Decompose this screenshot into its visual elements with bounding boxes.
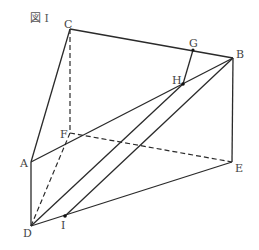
label-C: C [64,18,72,31]
edge-CA [31,29,70,162]
figure-title: 図 I [30,12,49,25]
segment-DH [31,84,183,226]
point-I [63,214,67,218]
label-H: H [172,74,182,87]
label-B: B [236,48,244,61]
label-I: I [61,219,65,232]
label-E: E [235,162,243,175]
edge-CB [70,29,233,58]
edge-BE [232,58,233,162]
point-H [181,82,185,86]
solid-figure-diagram: 図 I C B G H F A E D I [0,0,259,250]
edge-DE [31,162,232,226]
edge-FE [70,133,232,162]
label-A: A [19,157,29,170]
label-D: D [23,227,32,240]
label-G: G [189,37,198,50]
label-F: F [60,128,68,141]
edge-AB [31,58,233,162]
edge-FD [31,133,70,226]
